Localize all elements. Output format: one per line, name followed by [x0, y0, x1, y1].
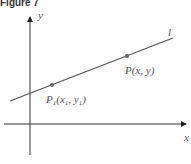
point-p1-label: P1(x1, y1) [45, 93, 86, 107]
point-p-label: P(x, y) [124, 64, 155, 77]
point-p1 [50, 83, 54, 87]
y-axis-label: y [37, 9, 43, 21]
line-label: l [168, 26, 171, 38]
point-p [125, 54, 129, 58]
coordinate-diagram: y x l P(x, y) P1(x1, y1) [0, 0, 191, 164]
x-axis-label: x [183, 131, 189, 143]
